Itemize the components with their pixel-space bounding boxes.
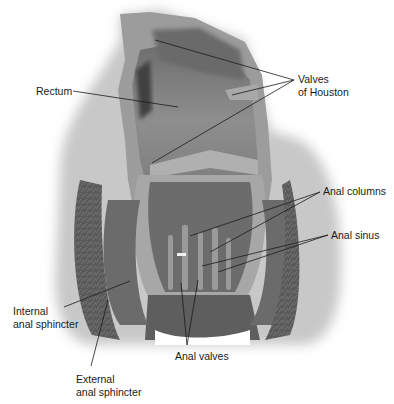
- label-internal-anal-sphincter: Internal anal sphincter: [13, 305, 78, 331]
- label-external-anal-sphincter: External anal sphincter: [76, 373, 141, 399]
- label-rectum: Rectum: [36, 85, 72, 98]
- label-valves-of-houston: Valves of Houston: [298, 73, 349, 99]
- anal-canal: [134, 175, 266, 345]
- label-anal-valves: Anal valves: [175, 350, 229, 363]
- label-anal-columns: Anal columns: [323, 185, 386, 198]
- anorectal-diagram: Rectum Valves of Houston Anal columns An…: [0, 0, 394, 404]
- label-anal-sinus: Anal sinus: [331, 229, 379, 242]
- anatomy-illustration: [0, 0, 394, 404]
